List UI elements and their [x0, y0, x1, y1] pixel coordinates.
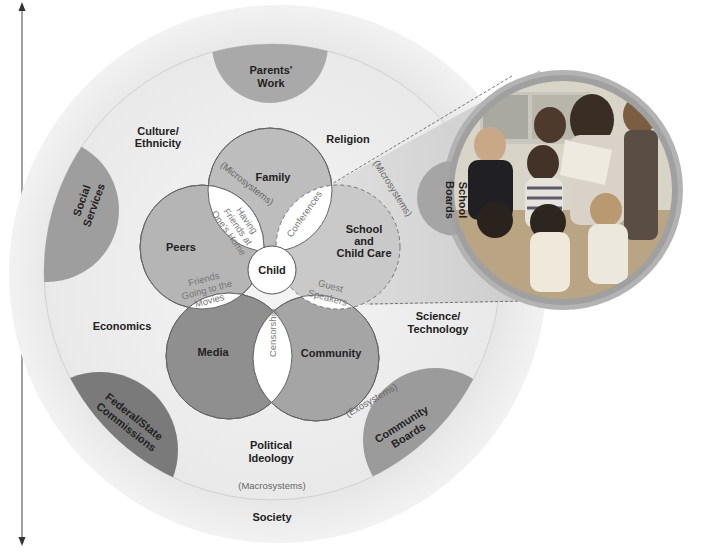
ecological-systems-diagram: Chronosystem — [0, 0, 704, 557]
arrow-down-icon — [19, 537, 26, 546]
svg-text:Child Care: Child Care — [336, 247, 391, 259]
svg-text:Political: Political — [250, 439, 292, 451]
arrow-up-icon — [19, 2, 26, 11]
svg-text:Work: Work — [257, 77, 285, 89]
religion-label: Religion — [326, 133, 370, 145]
svg-text:Boards: Boards — [444, 181, 456, 219]
culture-label: Culture/ Ethnicity — [135, 125, 182, 149]
science-label: Science/ Technology — [408, 310, 470, 335]
child-label: Child — [258, 264, 286, 276]
svg-text:Science/: Science/ — [416, 310, 461, 322]
community-label: Community — [301, 347, 362, 359]
macrosystems-label: (Macrosystems) — [238, 480, 306, 491]
meso-censorship-label: Censorship — [267, 309, 278, 357]
svg-text:Parents': Parents' — [250, 64, 293, 76]
svg-text:and: and — [354, 235, 374, 247]
economics-label: Economics — [93, 320, 152, 332]
svg-text:School: School — [346, 223, 383, 235]
media-label: Media — [197, 346, 229, 358]
svg-text:School: School — [457, 182, 469, 219]
society-label: Society — [252, 511, 292, 523]
svg-text:Ideology: Ideology — [248, 452, 294, 464]
political-label: Political Ideology — [248, 439, 294, 464]
svg-text:Technology: Technology — [408, 323, 470, 335]
peers-label: Peers — [166, 241, 196, 253]
school-boards-label: School Boards — [444, 181, 469, 219]
svg-text:Culture/: Culture/ — [137, 125, 179, 137]
family-label: Family — [256, 171, 292, 183]
svg-text:Ethnicity: Ethnicity — [135, 137, 182, 149]
